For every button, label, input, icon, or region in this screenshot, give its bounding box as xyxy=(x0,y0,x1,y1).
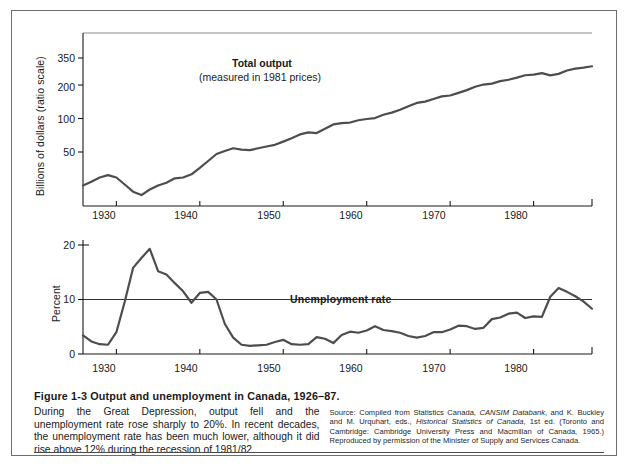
caption-title: Figure 1-3 Output and unemployment in Ca… xyxy=(34,390,604,402)
source-italic-histstats: Historical Statistics of Canada xyxy=(416,417,523,426)
caption-divider xyxy=(34,452,604,453)
source-prefix: Source: Compiled from Statistics Canada, xyxy=(329,408,479,417)
caption-source-text: Source: Compiled from Statistics Canada,… xyxy=(329,406,604,445)
figure-root: Billions of dollars (ratio scale) 350 20… xyxy=(0,0,631,472)
caption-body-text: During the Great Depression, output fell… xyxy=(34,406,329,456)
figure-caption: Figure 1-3 Output and unemployment in Ca… xyxy=(34,390,604,456)
source-italic-cansim: CANSIM Databank xyxy=(479,408,545,417)
